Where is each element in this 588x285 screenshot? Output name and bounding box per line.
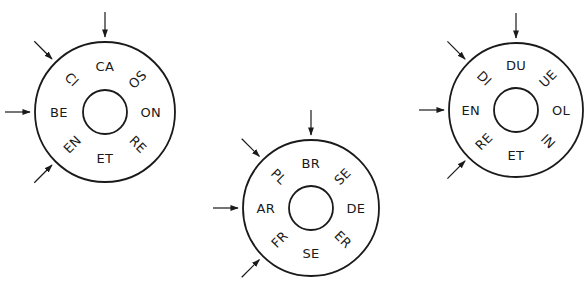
arrow-icon xyxy=(242,139,260,157)
wheel-label-right: OL xyxy=(552,104,570,117)
wheel-label-top: CA xyxy=(96,60,115,73)
center-hub xyxy=(289,186,333,230)
wheel-2 xyxy=(213,110,379,277)
wheel-shapes xyxy=(0,0,588,285)
wheel-label-left: AR xyxy=(257,202,276,215)
wheel-label-right: DE xyxy=(347,202,366,215)
wheel-label-bottom: ET xyxy=(97,152,114,165)
wheel-label-top: BR xyxy=(302,157,321,170)
center-hub xyxy=(83,90,127,134)
wheel-1 xyxy=(5,12,175,183)
arrow-icon xyxy=(242,260,260,278)
wheel-label-right: ON xyxy=(141,106,162,119)
wheel-label-bottom: SE xyxy=(303,247,320,260)
wheel-label-left: EN xyxy=(462,104,481,117)
arrow-icon xyxy=(447,41,465,59)
wheel-label-left: BE xyxy=(50,106,68,119)
wheel-label-bottom: ET xyxy=(508,149,525,162)
arrow-icon xyxy=(34,41,52,59)
arrow-icon xyxy=(447,161,465,179)
wheel-label-top: DU xyxy=(506,59,526,72)
arrow-icon xyxy=(34,165,52,183)
center-hub xyxy=(494,88,538,132)
word-wheel-puzzle: CAOSONREETENBECIBRSEDEERSEFRARPLDUUEOLIN… xyxy=(0,0,588,285)
wheel-3 xyxy=(419,13,583,179)
